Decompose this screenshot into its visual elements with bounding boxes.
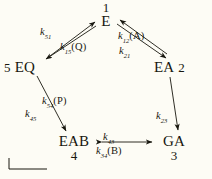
node-eq-label: EQ — [15, 59, 35, 75]
rate-label-k45: k45 — [25, 108, 36, 119]
scale-bar — [9, 158, 47, 169]
rate-k12a-sub: 12 — [123, 37, 130, 44]
rate-k54p-sub: 54 — [47, 102, 54, 109]
reaction-scheme-figure: 1 E 5 EQ EA 2 EAB 4 GA 3 k51 k15(Q) k12(… — [0, 0, 212, 179]
rate-label-k12a: k12(A) — [118, 30, 144, 41]
rate-k34b-sub: 34 — [101, 152, 108, 159]
rate-label-k34b: k34(B) — [96, 145, 122, 156]
rate-label-k15q: k15(Q) — [60, 41, 86, 52]
rate-label-k54p: k54(P) — [42, 95, 67, 106]
node-ea: EA 2 — [154, 59, 210, 75]
node-eq-number: 5 — [4, 60, 11, 75]
rate-k23-sub: 23 — [161, 117, 168, 124]
node-ea-inline: EA 2 — [154, 59, 185, 75]
rate-label-k43: k43 — [103, 131, 114, 142]
rate-label-k21: k21 — [119, 45, 130, 56]
rate-k12a-species: (A) — [129, 30, 144, 41]
node-e-number: 1 — [88, 1, 124, 14]
node-eq-inline: 5 EQ — [4, 59, 35, 75]
rate-k51-sub: 51 — [45, 33, 52, 40]
rate-k34b-species: (B) — [107, 145, 121, 156]
rate-k21-sub: 21 — [124, 52, 131, 59]
node-eq: 5 EQ — [4, 59, 62, 75]
rate-label-k51: k51 — [40, 26, 51, 37]
node-eab-label: EAB — [50, 134, 98, 149]
node-e-label: E — [88, 14, 124, 29]
rate-label-k23: k23 — [156, 110, 167, 121]
node-ga-number: 3 — [155, 149, 193, 162]
node-ga: GA 3 — [155, 134, 193, 163]
node-ea-label: EA — [154, 59, 174, 75]
edge-ea-to-ga — [170, 77, 178, 130]
node-ga-label: GA — [155, 134, 193, 149]
node-eab-number: 4 — [50, 149, 98, 162]
rate-k45-sub: 45 — [30, 115, 37, 122]
rate-k15q-sub: 15 — [65, 48, 72, 55]
rate-k15q-species: (Q) — [71, 41, 86, 52]
node-ea-number: 2 — [178, 60, 185, 75]
node-e: 1 E — [88, 1, 124, 30]
rate-k54p-species: (P) — [53, 95, 66, 106]
node-eab: EAB 4 — [50, 134, 98, 163]
